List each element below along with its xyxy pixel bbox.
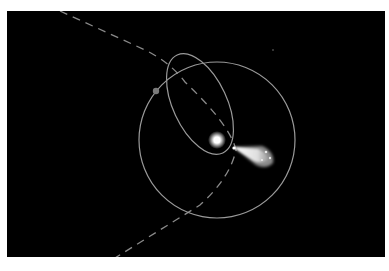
comet-tail-fleck bbox=[261, 159, 263, 161]
comet bbox=[232, 146, 273, 167]
sun bbox=[214, 137, 221, 144]
comet-head bbox=[232, 146, 235, 149]
comet-tail-fleck bbox=[269, 157, 271, 159]
star bbox=[272, 49, 274, 51]
comet-tail-fleck bbox=[265, 151, 268, 154]
orbit-diagram-canvas bbox=[7, 11, 385, 257]
dashed-trajectory bbox=[60, 11, 236, 257]
comet-orbit bbox=[153, 44, 248, 165]
space-diagram bbox=[7, 11, 385, 257]
planet bbox=[153, 88, 159, 94]
